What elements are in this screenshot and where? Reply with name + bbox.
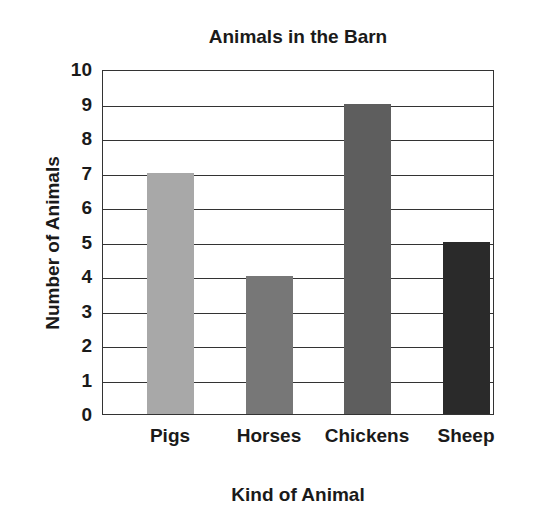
y-tick-label: 4 [62,267,92,287]
bar-chickens [344,104,391,415]
x-axis-title: Kind of Animal [102,484,494,506]
x-tick-label: Sheep [416,425,516,447]
y-tick-label: 7 [62,164,92,184]
x-tick-label: Chickens [317,425,417,447]
plot-area [102,70,494,415]
x-tick-label: Pigs [120,425,220,447]
gridline [103,140,493,141]
bar-horses [246,276,293,414]
y-tick-label: 9 [62,95,92,115]
y-tick-label: 0 [62,405,92,425]
y-tick-label: 10 [62,60,92,80]
bar-sheep [443,242,490,415]
y-tick-label: 3 [62,302,92,322]
y-tick-label: 5 [62,233,92,253]
chart-title: Animals in the Barn [102,26,494,48]
y-tick-label: 8 [62,129,92,149]
x-tick-label: Horses [219,425,319,447]
y-tick-label: 1 [62,371,92,391]
bar-pigs [147,173,194,415]
y-axis-title: Number of Animals [42,156,64,330]
gridline [103,106,493,107]
y-tick-label: 2 [62,336,92,356]
y-tick-label: 6 [62,198,92,218]
